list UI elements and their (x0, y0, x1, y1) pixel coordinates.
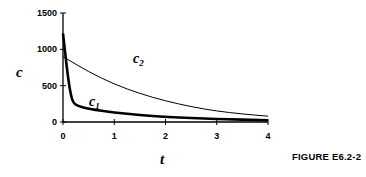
series-label-c1: c1 (89, 94, 100, 111)
x-tick-label: 1 (112, 131, 117, 141)
axes: 05001000150001234 (37, 8, 271, 141)
y-tick-label: 0 (52, 117, 57, 127)
x-tick-label: 2 (163, 131, 168, 141)
x-tick-label: 0 (60, 131, 65, 141)
x-axis-label: t (160, 151, 165, 167)
y-tick-label: 1500 (37, 8, 57, 18)
y-tick-label: 1000 (37, 44, 57, 54)
y-axis-label: c (16, 64, 23, 80)
x-tick-label: 3 (214, 131, 219, 141)
figure-caption: FIGURE E6.2-2 (292, 151, 361, 162)
x-tick-label: 4 (265, 131, 270, 141)
y-tick-label: 500 (42, 81, 57, 91)
series-label-c2: c2 (133, 51, 144, 68)
